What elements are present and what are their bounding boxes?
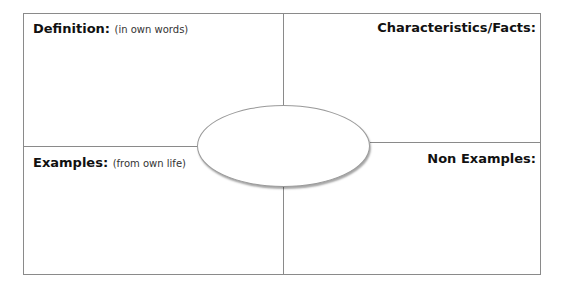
- non-examples-title: Non Examples:: [427, 151, 536, 166]
- characteristics-title: Characteristics/Facts:: [377, 20, 536, 35]
- quadrant-non-examples: Non Examples:: [427, 151, 536, 166]
- quadrant-characteristics: Characteristics/Facts:: [377, 20, 536, 35]
- divider-horizontal-left: [23, 146, 198, 147]
- divider-horizontal-right: [370, 142, 541, 143]
- quadrant-definition: Definition: (in own words): [33, 21, 188, 36]
- divider-vertical-bottom: [283, 187, 284, 275]
- divider-vertical-top: [283, 13, 284, 105]
- examples-hint: (from own life): [113, 158, 186, 169]
- examples-title: Examples:: [33, 155, 108, 170]
- quadrant-examples: Examples: (from own life): [33, 155, 186, 170]
- center-term-oval: [197, 105, 370, 187]
- definition-title: Definition:: [33, 21, 110, 36]
- definition-hint: (in own words): [115, 24, 189, 35]
